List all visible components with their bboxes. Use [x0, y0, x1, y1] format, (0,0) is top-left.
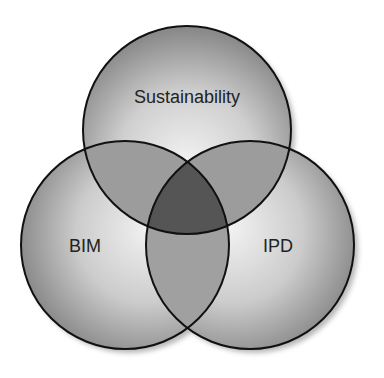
- label-bim: BIM: [69, 236, 101, 256]
- venn-diagram: Sustainability BIM IPD: [0, 0, 384, 378]
- label-sustainability: Sustainability: [134, 87, 240, 107]
- label-ipd: IPD: [263, 236, 293, 256]
